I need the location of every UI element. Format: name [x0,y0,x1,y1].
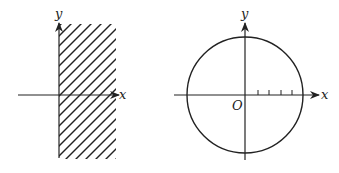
x-axis-label: x [119,87,127,102]
tick-marks [258,90,292,95]
diagram-canvas: y x y x O [0,0,339,173]
half-plane-figure: y x [0,6,270,173]
y-axis-label: y [54,6,63,21]
x-axis-label: x [321,87,329,102]
origin-label: O [232,98,243,113]
circle-figure: y x O [174,6,329,160]
y-axis-label: y [240,6,249,21]
